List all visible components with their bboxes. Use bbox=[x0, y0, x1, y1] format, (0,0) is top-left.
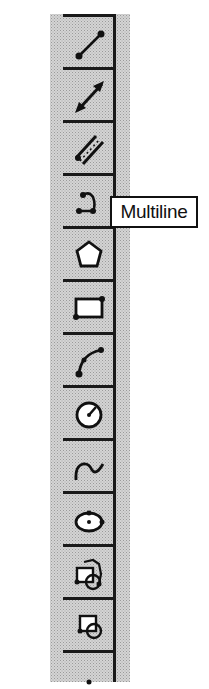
button-separator bbox=[63, 650, 116, 653]
line-icon bbox=[69, 24, 109, 62]
multiline-button[interactable] bbox=[50, 173, 116, 226]
dimension-button[interactable] bbox=[50, 67, 116, 120]
arc-button[interactable] bbox=[50, 332, 116, 385]
button-separator bbox=[63, 438, 116, 441]
button-separator bbox=[63, 279, 116, 282]
button-separator bbox=[63, 491, 116, 494]
polygon-icon bbox=[69, 236, 109, 274]
tooltip-text: Multiline bbox=[121, 201, 188, 223]
circle-button[interactable] bbox=[50, 385, 116, 438]
polygon-button[interactable] bbox=[50, 226, 116, 279]
ellipse-button[interactable] bbox=[50, 491, 116, 544]
button-separator bbox=[63, 120, 116, 123]
spline-button[interactable] bbox=[50, 438, 116, 491]
button-separator bbox=[63, 332, 116, 335]
insert-block-multi-button[interactable] bbox=[50, 544, 116, 597]
ellipse-icon bbox=[69, 501, 109, 539]
button-separator bbox=[63, 173, 116, 176]
insert-block-multi-icon bbox=[69, 554, 109, 592]
line-button[interactable] bbox=[50, 14, 116, 67]
arc-icon bbox=[69, 342, 109, 380]
double-line-icon bbox=[69, 130, 109, 168]
button-separator bbox=[63, 544, 116, 547]
button-separator bbox=[63, 597, 116, 600]
point-icon bbox=[69, 660, 109, 689]
button-separator bbox=[63, 14, 116, 17]
insert-block-button[interactable] bbox=[50, 597, 116, 650]
double-arrow-line-icon bbox=[69, 77, 109, 115]
insert-block-icon bbox=[69, 607, 109, 645]
rectangle-icon bbox=[69, 289, 109, 327]
double-line-button[interactable] bbox=[50, 120, 116, 173]
rectangle-button[interactable] bbox=[50, 279, 116, 332]
multiline-icon bbox=[69, 183, 109, 221]
button-separator bbox=[63, 226, 116, 229]
button-separator bbox=[63, 67, 116, 70]
spline-icon bbox=[69, 448, 109, 486]
circle-icon bbox=[69, 395, 109, 433]
button-separator bbox=[63, 385, 116, 388]
point-button[interactable] bbox=[50, 650, 116, 689]
tooltip-multiline: Multiline bbox=[110, 196, 198, 228]
draw-toolbar bbox=[50, 14, 130, 682]
